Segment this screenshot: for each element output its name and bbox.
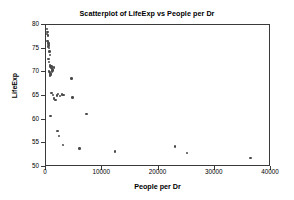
y-tick-label: 60	[21, 116, 39, 122]
x-tick-label: 20000	[138, 169, 178, 175]
x-tick-label: 40000	[250, 169, 290, 175]
scatterplot-figure: Scatterplot of LifeExp vs People per Dr …	[0, 0, 294, 200]
y-tick-mark	[41, 95, 45, 96]
y-tick-mark	[41, 24, 45, 25]
x-axis-label: People per Dr	[45, 182, 270, 191]
y-tick-mark	[41, 48, 45, 49]
y-tick-label: 65	[21, 92, 39, 98]
y-axis-label: LifeExp	[11, 56, 18, 116]
y-tick-label: 70	[21, 68, 39, 74]
y-tick-label: 75	[21, 45, 39, 51]
plot-area-frame	[45, 24, 270, 166]
x-tick-label: 10000	[81, 169, 121, 175]
y-tick-label: 55	[21, 139, 39, 145]
y-tick-mark	[41, 71, 45, 72]
x-tick-label: 30000	[194, 169, 234, 175]
x-tick-label: 0	[25, 169, 65, 175]
y-tick-mark	[41, 119, 45, 120]
chart-title: Scatterplot of LifeExp vs People per Dr	[0, 9, 294, 18]
y-tick-mark	[41, 142, 45, 143]
y-tick-label: 80	[21, 21, 39, 27]
